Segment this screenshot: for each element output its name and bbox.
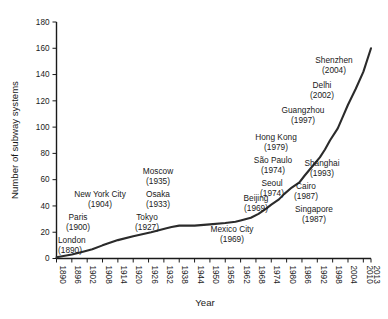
city-annotation: Seoul(1974) [260,178,284,198]
city-annotation: São Paulo(1974) [254,155,293,175]
annotation-city-name: Moscow [143,166,174,176]
x-tick-label: 1914 [119,266,128,285]
y-tick-label: 40 [40,202,50,211]
annotation-city-name: Singapore [295,204,333,214]
x-tick-label: 1896 [73,266,82,285]
x-tick-label: 1908 [104,266,113,285]
x-tick-label: 1920 [134,266,143,285]
city-annotation: Guangzhou(1997) [282,105,325,125]
x-tick-label: 1992 [319,266,328,285]
city-annotation: Osaka(1933) [146,189,170,209]
x-tick-label: 1998 [334,266,343,285]
annotation-city-name: Shanghai [304,158,339,168]
annotation-year: (1890) [58,245,82,255]
city-annotation: Hong Kong(1979) [255,132,297,152]
city-annotation: Cairo(1987) [294,181,318,201]
x-tick-label: 2013 [372,266,381,285]
city-annotation: New York City(1904) [74,189,126,209]
annotation-year: (1935) [146,176,170,186]
y-tick-label: 180 [36,18,50,27]
annotation-city-name: Delhi [313,80,332,90]
chart-canvas: 020406080100120140160180 189018961902190… [0,0,388,319]
x-tick-group: 1890189619021908191419201926193219381944… [57,259,382,285]
annotation-city-name: Guangzhou [282,105,325,115]
annotation-year: (1987) [294,191,318,201]
subway-systems-chart: 020406080100120140160180 189018961902190… [0,0,388,319]
x-tick-label: 1950 [211,266,220,285]
annotation-city-name: Shenzhen [315,55,353,65]
city-annotation: Moscow(1935) [143,166,174,186]
x-tick-label: 1986 [303,266,312,285]
x-tick-label: 1968 [257,266,266,285]
x-tick-label: 1902 [88,266,97,285]
city-annotation: Paris(1900) [66,212,90,232]
annotation-year: (1904) [88,199,112,209]
annotation-year: (1969) [244,203,268,213]
annotation-city-name: Osaka [146,189,170,199]
city-annotation: London(1890) [58,235,86,255]
x-tick-label: 1980 [288,266,297,285]
annotation-year: (2004) [322,65,346,75]
annotation-year: (1969) [220,234,244,244]
annotation-city-name: London [58,235,86,245]
x-tick-label: 1944 [196,266,205,285]
annotation-year: (1997) [291,115,315,125]
annotation-year: (1974) [261,165,285,175]
x-tick-label: 1974 [272,266,281,285]
x-tick-label: 1932 [165,266,174,285]
x-tick-label: 2004 [349,266,358,285]
x-tick-label: 2010 [365,266,374,285]
y-tick-label: 160 [36,44,50,53]
annotation-city-name: Cairo [296,181,316,191]
city-annotation: Shenzhen(2004) [315,55,353,75]
annotation-city-name: Hong Kong [255,132,297,142]
annotation-city-name: Seoul [261,178,282,188]
annotation-city-name: Paris [69,212,88,222]
annotation-year: (1974) [260,188,284,198]
annotation-year: (1993) [310,168,334,178]
y-axis-title: Number of subway systems [9,81,20,199]
city-annotation: Delhi(2002) [310,80,334,100]
annotation-year: (1933) [146,199,170,209]
x-tick-label: 1890 [58,266,67,285]
annotation-year: (1987) [302,214,326,224]
x-axis-title: Year [195,297,215,308]
y-tick-label: 120 [36,97,50,106]
x-tick-label: 1938 [180,266,189,285]
annotation-year: (1900) [66,222,90,232]
y-tick-label: 100 [36,123,50,132]
annotation-year: (2002) [310,90,334,100]
y-tick-label: 0 [45,254,50,263]
city-annotation: Singapore(1987) [295,204,333,224]
y-tick-label: 60 [40,175,50,184]
y-tick-label: 80 [40,149,50,158]
city-annotation: Mexico City(1969) [211,224,255,244]
city-annotation: Shanghai(1993) [304,158,339,178]
y-tick-group: 020406080100120140160180 [36,18,57,264]
annotation-city-name: Tokyo [136,212,158,222]
x-tick-label: 1962 [242,266,251,285]
city-annotation: Tokyo(1927) [135,212,159,232]
x-tick-label: 1956 [226,266,235,285]
annotation-city-name: New York City [74,189,126,199]
annotation-year: (1979) [264,142,288,152]
x-tick-label: 1926 [150,266,159,285]
y-tick-label: 20 [40,228,50,237]
annotation-year: (1927) [135,222,159,232]
annotation-city-name: Mexico City [211,224,255,234]
y-tick-label: 140 [36,70,50,79]
annotation-city-name: São Paulo [254,155,293,165]
